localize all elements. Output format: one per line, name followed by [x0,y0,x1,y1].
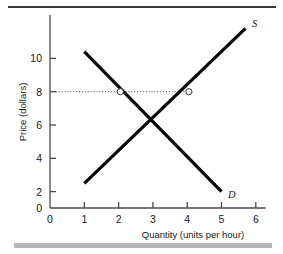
x-tick-label-3: 3 [150,213,156,225]
x-axis-ticks [84,202,256,208]
y-tick-label-10: 10 [30,52,42,64]
x-tick-label-4: 4 [184,213,190,225]
y-tick-label-4: 4 [36,152,42,164]
x-axis-title: Quantity (units per hour) [142,229,244,240]
x-tick-label-2: 2 [116,213,122,225]
y-tick-label-6: 6 [36,119,42,131]
x-tick-label-5: 5 [219,213,225,225]
x-tick-label-1: 1 [81,213,87,225]
x-tick-label-6: 6 [253,213,259,225]
y-tick-label-8: 8 [36,86,42,98]
y-axis-ticks [50,58,56,191]
y-tick-label-2: 2 [36,186,42,198]
y-axis-title: Price (dollars) [17,83,28,142]
demand-curve-label: D [227,189,236,200]
supply-demand-figure: 0 2 4 6 8 10 0 1 2 3 4 5 6 Price (dollar… [0,0,283,254]
demand-point-marker [117,89,123,95]
supply-curve [84,28,245,183]
y-tick-label-0: 0 [36,202,42,214]
supply-curve-label: S [252,18,258,29]
bottom-accent-bar [14,243,272,248]
x-tick-label-0: 0 [47,213,53,225]
supply-point-marker [186,89,192,95]
chart-plot-area: 0 2 4 6 8 10 0 1 2 3 4 5 6 Price (dollar… [0,0,283,254]
